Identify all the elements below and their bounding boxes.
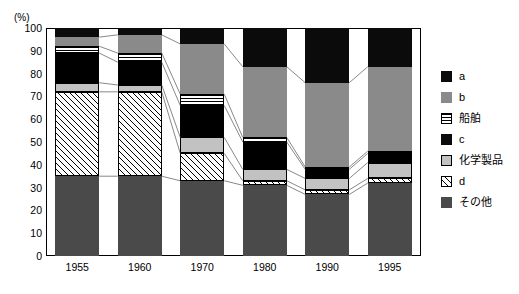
- bar-segment: [180, 44, 224, 94]
- bar-segment: [243, 67, 287, 138]
- x-tick-label: 1980: [235, 261, 295, 273]
- bar-segment: [243, 185, 287, 256]
- bar-column[interactable]: [55, 28, 99, 256]
- bar-segment: [118, 85, 162, 92]
- legend-item[interactable]: その他: [441, 192, 515, 213]
- y-tick-label: 50: [14, 137, 42, 147]
- bar-column[interactable]: [368, 28, 412, 256]
- legend-item[interactable]: a: [441, 66, 515, 87]
- x-tick-label: 1960: [110, 261, 170, 273]
- bar-segment: [55, 46, 99, 53]
- legend-item-label: b: [459, 92, 465, 103]
- legend-item[interactable]: 化学製品: [441, 150, 515, 171]
- bar-segment: [368, 183, 412, 256]
- bar-segment: [55, 28, 99, 37]
- y-axis: 1009080706050403020100: [10, 28, 42, 256]
- legend-swatch-icon: [441, 176, 452, 187]
- bar-segment: [243, 28, 287, 67]
- y-tick-label: 30: [14, 183, 42, 193]
- bar-segment: [305, 178, 349, 189]
- bar-segment: [180, 94, 224, 105]
- legend-swatch-icon: [441, 155, 452, 166]
- bar-column[interactable]: [180, 28, 224, 256]
- bar-column[interactable]: [118, 28, 162, 256]
- bar-segment: [118, 35, 162, 53]
- bar-segment: [118, 176, 162, 256]
- bar-segment: [180, 28, 224, 44]
- x-tick-label: 1970: [172, 261, 232, 273]
- bars-area: [46, 28, 421, 256]
- legend-swatch-icon: [441, 92, 452, 103]
- bar-segment: [305, 28, 349, 83]
- legend-item-label: その他: [459, 197, 492, 208]
- legend-item-label: c: [459, 134, 465, 145]
- y-tick-label: 100: [14, 23, 42, 33]
- legend-swatch-icon: [441, 71, 452, 82]
- bar-segment: [180, 181, 224, 256]
- legend-swatch-icon: [441, 134, 452, 145]
- bar-segment: [180, 137, 224, 153]
- x-tick-label: 1990: [297, 261, 357, 273]
- legend-item[interactable]: c: [441, 129, 515, 150]
- bar-segment: [368, 67, 412, 151]
- bar-segment: [118, 28, 162, 35]
- y-tick-label: 40: [14, 160, 42, 170]
- legend-swatch-icon: [441, 197, 452, 208]
- y-tick-label: 20: [14, 205, 42, 215]
- bar-segment: [118, 62, 162, 85]
- bar-column[interactable]: [243, 28, 287, 256]
- x-axis: 195519601970198019901995: [46, 259, 421, 279]
- bar-segment: [243, 142, 287, 169]
- bar-column[interactable]: [305, 28, 349, 256]
- legend-item[interactable]: b: [441, 87, 515, 108]
- y-tick-label: 90: [14, 46, 42, 56]
- y-tick-label: 0: [14, 251, 42, 261]
- legend-item-label: d: [459, 176, 465, 187]
- chart-root: (%) 1009080706050403020100 1955196019701…: [0, 0, 519, 294]
- legend-item[interactable]: d: [441, 171, 515, 192]
- bar-segment: [305, 169, 349, 178]
- legend-item-label: a: [459, 71, 465, 82]
- bar-segment: [243, 169, 287, 180]
- legend-item[interactable]: 船舶: [441, 108, 515, 129]
- bar-segment: [118, 53, 162, 62]
- bar-segment: [368, 28, 412, 67]
- x-tick-label: 1995: [360, 261, 420, 273]
- bar-segment: [55, 37, 99, 46]
- bar-segment: [55, 176, 99, 256]
- bar-segment: [55, 83, 99, 92]
- bar-segment: [368, 153, 412, 162]
- bar-segment: [368, 163, 412, 179]
- bar-segment: [118, 92, 162, 176]
- legend-swatch-icon: [441, 113, 452, 124]
- legend: ab船舶c化学製品dその他: [441, 66, 515, 213]
- bar-segment: [55, 53, 99, 83]
- y-tick-label: 70: [14, 91, 42, 101]
- bar-segment: [55, 92, 99, 176]
- bar-segment: [180, 106, 224, 138]
- bar-segment: [305, 194, 349, 256]
- bar-segment: [180, 153, 224, 180]
- legend-item-label: 化学製品: [459, 155, 503, 166]
- x-tick-label: 1955: [47, 261, 107, 273]
- y-tick-label: 60: [14, 114, 42, 124]
- y-tick-label: 80: [14, 69, 42, 79]
- y-tick-label: 10: [14, 228, 42, 238]
- legend-item-label: 船舶: [459, 113, 481, 124]
- bar-segment: [305, 83, 349, 167]
